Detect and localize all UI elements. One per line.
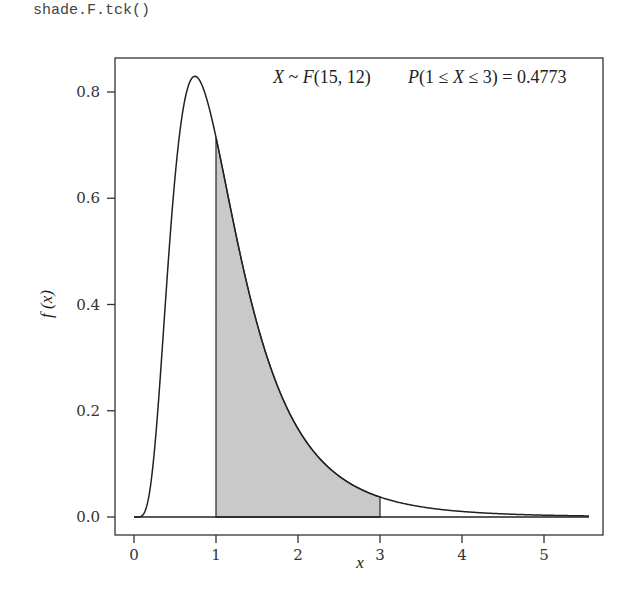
x-axis: 012345 — [129, 535, 549, 564]
annotation-probability: P(1 ≤ X ≤ 3) = 0.4773 — [407, 67, 566, 88]
density-curve — [134, 76, 589, 517]
y-tick-label: 0.8 — [76, 83, 100, 101]
shaded-area — [216, 137, 380, 517]
x-tick-label: 5 — [539, 546, 549, 564]
y-tick-label: 0.0 — [76, 508, 100, 526]
annotation-distribution: X ~ F(15, 12) — [272, 67, 371, 88]
y-tick-label: 0.4 — [76, 296, 100, 314]
x-tick-label: 1 — [211, 546, 221, 564]
y-axis: 0.00.20.40.60.8 — [76, 83, 115, 526]
y-tick-label: 0.2 — [76, 402, 100, 420]
y-axis-title: f (x) — [37, 290, 56, 318]
x-tick-label: 0 — [129, 546, 139, 564]
x-tick-label: 2 — [293, 546, 303, 564]
plot-frame — [115, 58, 603, 535]
y-tick-label: 0.6 — [76, 189, 100, 207]
x-tick-label: 4 — [457, 546, 467, 564]
chart: 0.00.20.40.60.8 012345 X ~ F(15, 12) P(1… — [0, 0, 633, 598]
x-tick-label: 3 — [375, 546, 385, 564]
x-axis-title: x — [355, 553, 364, 572]
